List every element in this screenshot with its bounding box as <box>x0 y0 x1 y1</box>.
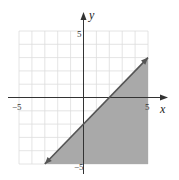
x-axis-arrow-icon <box>160 95 168 101</box>
inequality-graph: −5 5 5 −5 x y <box>0 0 179 180</box>
y-min-tick-label: −5 <box>74 162 84 172</box>
y-axis-arrow-icon <box>81 12 87 20</box>
x-min-tick-label: −5 <box>12 102 22 112</box>
x-axis-label: x <box>159 102 166 116</box>
y-axis-label: y <box>88 8 95 22</box>
x-max-tick-label: 5 <box>145 102 150 112</box>
y-max-tick-label: 5 <box>77 29 82 39</box>
